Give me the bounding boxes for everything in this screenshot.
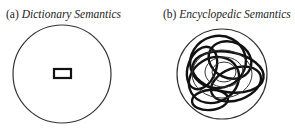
panel-a-diagram: [13, 25, 111, 123]
diagram-canvas: [0, 0, 295, 138]
panel-b-diagram: [177, 29, 267, 119]
dictionary-core-rectangle: [54, 69, 71, 78]
dictionary-outer-circle: [13, 25, 111, 123]
